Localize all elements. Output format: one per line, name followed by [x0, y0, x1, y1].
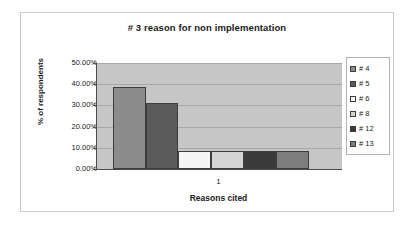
legend-label: # 8 — [359, 110, 369, 118]
chart-frame: # 3 reason for non implementation % of r… — [20, 12, 394, 212]
x-axis-tick-label: 1 — [96, 177, 341, 186]
bar — [178, 151, 211, 169]
legend-swatch-icon — [350, 66, 356, 72]
y-axis-tick-mark — [93, 169, 97, 170]
bar — [146, 103, 179, 169]
legend-item: # 8 — [350, 106, 387, 121]
bar — [244, 151, 277, 169]
bar — [113, 87, 146, 169]
plot-area — [96, 63, 342, 170]
legend-swatch-icon — [350, 126, 356, 132]
y-axis-title: % of respondents — [36, 42, 45, 142]
legend-item: # 5 — [350, 76, 387, 91]
legend-item: # 4 — [350, 61, 387, 76]
y-axis-tick-label: 0.00% — [49, 165, 97, 173]
legend-label: # 13 — [359, 140, 374, 148]
legend-item: # 12 — [350, 121, 387, 136]
bars-group — [97, 63, 342, 169]
y-axis-tick-label: 20.00% — [49, 123, 97, 131]
y-axis-tick-label: 30.00% — [49, 101, 97, 109]
bar — [276, 151, 309, 169]
chart-title: # 3 reason for non implementation — [21, 22, 393, 33]
legend-swatch-icon — [350, 111, 356, 117]
y-axis-tick-label: 10.00% — [49, 144, 97, 152]
legend-label: # 4 — [359, 65, 369, 73]
legend-item: # 6 — [350, 91, 387, 106]
legend-label: # 6 — [359, 95, 369, 103]
y-axis-tick-labels: 50.00%40.00%30.00%20.00%10.00%0.00% — [49, 57, 97, 169]
y-axis-tick-label: 40.00% — [49, 80, 97, 88]
legend-swatch-icon — [350, 81, 356, 87]
legend-label: # 12 — [359, 125, 374, 133]
x-axis-title: Reasons cited — [96, 193, 341, 203]
bar — [211, 151, 244, 169]
legend-swatch-icon — [350, 141, 356, 147]
y-axis-tick-label: 50.00% — [49, 59, 97, 67]
legend-item: # 13 — [350, 136, 387, 151]
legend-swatch-icon — [350, 96, 356, 102]
legend-label: # 5 — [359, 80, 369, 88]
legend: # 4# 5# 6# 8# 12# 13 — [346, 57, 390, 155]
